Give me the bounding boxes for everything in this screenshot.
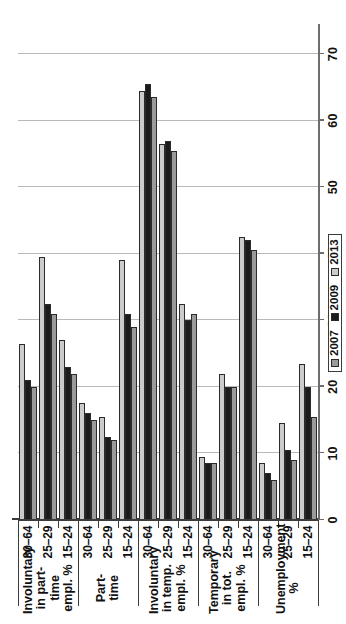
category-label: 25–29 [101,522,115,562]
legend-item[interactable]: 2009 [329,285,341,322]
bar [225,387,231,520]
category-tick [58,520,59,528]
bar [305,387,311,520]
category-label: 25–29 [161,522,175,562]
bar [271,480,277,520]
group-separator [198,520,199,606]
category-tick [98,520,99,528]
bar [291,460,297,520]
axis-tick-label: 50 [326,167,340,207]
bar [191,314,197,520]
category-label: 30–64 [81,522,95,562]
bar [239,237,245,520]
legend-swatch-icon [331,268,339,276]
category-tick [118,520,119,528]
bar [125,314,131,520]
legend-label: 2009 [329,285,341,311]
group-label: Involuntary in temp. empl. % [148,562,188,614]
bar [279,423,285,520]
bar [179,304,185,520]
category-tick [38,520,39,528]
bar [251,250,257,520]
category-label: 15–24 [301,522,315,562]
bar [285,450,291,520]
category-tick [238,520,239,528]
legend-item[interactable]: 2013 [329,239,341,276]
bar [131,327,137,520]
axis-tick [318,186,324,187]
axis-tick-label: 70 [326,34,340,74]
bar [79,404,85,521]
bar [85,414,91,521]
axis-tick-label: 20 [326,367,340,407]
group-separator [258,520,259,606]
chart-figure: 010203040506070 15–2425–2930–64Unemploym… [0,0,346,624]
group-label: Temporary in tot. empl. % [208,562,248,614]
bar [231,387,237,520]
bar [71,374,77,520]
bar [105,437,111,520]
bar [99,417,105,520]
axis-tick [318,53,324,54]
category-tick [178,520,179,528]
bar [151,97,157,520]
bar [311,417,317,520]
bar [211,463,217,520]
bar [45,304,51,520]
bar [145,84,151,520]
bar [185,320,191,520]
category-axis-line [18,520,318,522]
gridline [18,120,318,121]
bar [51,314,57,520]
axis-tick-label: 10 [326,433,340,473]
group-separator [318,520,319,606]
bar [299,364,305,520]
bar [91,420,97,520]
bar [205,463,211,520]
bar [259,463,265,520]
bar [39,257,45,520]
bar [159,144,165,520]
legend-label: 2013 [329,239,341,265]
bar [219,374,225,520]
legend-swatch-icon [331,359,339,367]
bar [31,387,37,520]
bar [171,151,177,520]
bar [165,141,171,520]
bar [59,340,65,520]
value-axis-line [318,24,320,520]
axis-tick [318,119,324,120]
axis-tick-label: 0 [326,500,340,540]
axis-tick [318,385,324,386]
gridline [18,53,318,54]
bar [25,380,31,520]
bar [199,457,205,520]
group-separator [18,520,19,606]
group-label: Part-time [95,562,122,614]
category-tick [298,520,299,528]
axis-tick [318,452,324,453]
bar [65,367,71,520]
category-label: 15–24 [241,522,255,562]
category-label: 15–24 [181,522,195,562]
category-label: 15–24 [121,522,135,562]
legend-label: 2007 [329,330,341,356]
chart-canvas: 010203040506070 15–2425–2930–64Unemploym… [0,0,346,624]
group-separator [78,520,79,606]
legend-item[interactable]: 2007 [329,330,341,367]
category-label: 25–29 [221,522,235,562]
group-separator [138,520,139,606]
category-label: 15–24 [61,522,75,562]
chart-legend: 200720092013 [328,234,342,372]
axis-tick [318,252,324,253]
axis-tick [318,319,324,320]
axis-tick-label: 60 [326,101,340,141]
plot-area [18,54,318,520]
bar [19,344,25,520]
bar [265,473,271,520]
bar [139,91,145,520]
bar [111,440,117,520]
category-tick [158,520,159,528]
category-label: 25–29 [41,522,55,562]
category-tick [218,520,219,528]
